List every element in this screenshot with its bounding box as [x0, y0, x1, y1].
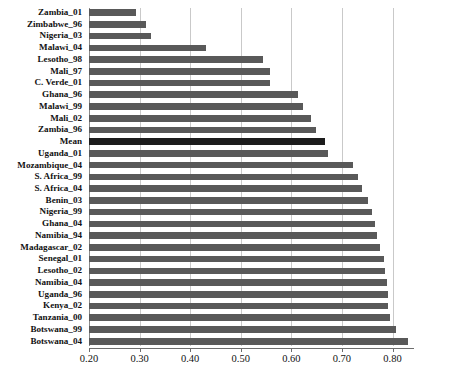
category-label: Uganda_01: [0, 149, 86, 158]
plot-area: [89, 8, 413, 346]
bar: [89, 56, 263, 63]
x-tick-mark: [190, 348, 191, 352]
bar: [89, 127, 316, 134]
bar-row: [89, 31, 413, 40]
bar: [89, 33, 151, 40]
bar: [89, 21, 146, 28]
x-tick-label: 0.50: [232, 353, 250, 364]
bar-row: [89, 184, 413, 193]
bar-row: [89, 137, 413, 146]
category-label: Mali_97: [0, 67, 86, 76]
x-tick-label: 0.60: [282, 353, 300, 364]
bar-row: [89, 90, 413, 99]
category-label: Zambia_96: [0, 125, 86, 134]
bar: [89, 115, 311, 122]
bar-row: [89, 337, 413, 346]
category-label: Lesotho_98: [0, 55, 86, 64]
bar: [89, 338, 408, 345]
category-axis-labels: Zambia_01Zimbabwe_96Nigeria_03Malawi_04L…: [0, 8, 86, 346]
category-label: C. Verde_01: [0, 78, 86, 87]
bar: [89, 244, 380, 251]
bar-chart: Zambia_01Zimbabwe_96Nigeria_03Malawi_04L…: [0, 0, 452, 387]
bar: [89, 162, 353, 169]
bar: [89, 185, 362, 192]
category-label: S. Africa_99: [0, 172, 86, 181]
bar-row: [89, 78, 413, 87]
bar-row: [89, 55, 413, 64]
category-label: Mali_02: [0, 114, 86, 123]
category-label: Uganda_96: [0, 290, 86, 299]
x-tick-label: 0.70: [333, 353, 351, 364]
category-label: Benin_03: [0, 196, 86, 205]
bar: [89, 326, 396, 333]
x-tick-mark: [89, 348, 90, 352]
bar-row: [89, 172, 413, 181]
bar: [89, 209, 372, 216]
bar: [89, 291, 388, 298]
x-tick-label: 0.30: [130, 353, 148, 364]
category-label: Ghana_04: [0, 219, 86, 228]
bar-mean: [89, 138, 325, 145]
category-label: Botswana_99: [0, 325, 86, 334]
x-tick-mark: [393, 348, 394, 352]
x-axis-line: [89, 348, 414, 349]
bar: [89, 150, 328, 157]
bar-row: [89, 114, 413, 123]
category-label: Kenya_02: [0, 301, 86, 310]
bar-row: [89, 102, 413, 111]
x-tick-mark: [342, 348, 343, 352]
bar: [89, 91, 298, 98]
bar-row: [89, 125, 413, 134]
bar-row: [89, 43, 413, 52]
bar-row: [89, 161, 413, 170]
x-tick-mark: [241, 348, 242, 352]
bar: [89, 232, 377, 239]
x-tick-label: 0.80: [383, 353, 401, 364]
bar-row: [89, 67, 413, 76]
bar-row: [89, 207, 413, 216]
bar-row: [89, 278, 413, 287]
bar: [89, 279, 387, 286]
category-label: Madagascar_02: [0, 243, 86, 252]
bar-row: [89, 20, 413, 29]
x-tick-mark: [140, 348, 141, 352]
bar: [89, 303, 388, 310]
bar: [89, 221, 375, 228]
bar: [89, 68, 270, 75]
category-label: Namibia_04: [0, 278, 86, 287]
bar-row: [89, 325, 413, 334]
x-tick-label: 0.20: [80, 353, 98, 364]
bar: [89, 9, 136, 16]
bar: [89, 45, 206, 52]
bar: [89, 197, 368, 204]
category-label: Malawi_04: [0, 43, 86, 52]
bar-row: [89, 266, 413, 275]
bar-row: [89, 149, 413, 158]
category-label: Namibia_94: [0, 231, 86, 240]
category-label: Ghana_96: [0, 90, 86, 99]
bar-row: [89, 196, 413, 205]
x-tick-label: 0.40: [181, 353, 199, 364]
bar-row: [89, 301, 413, 310]
category-label: Nigeria_99: [0, 207, 86, 216]
bar-row: [89, 8, 413, 17]
bar-row: [89, 243, 413, 252]
bar-row: [89, 219, 413, 228]
category-label: Mean: [0, 137, 86, 146]
bar: [89, 256, 384, 263]
category-label: Zimbabwe_96: [0, 20, 86, 29]
category-label: Botswana_04: [0, 337, 86, 346]
x-tick-mark: [291, 348, 292, 352]
bar-row: [89, 313, 413, 322]
category-label: Lesotho_02: [0, 266, 86, 275]
bar: [89, 314, 390, 321]
bar: [89, 268, 385, 275]
bar: [89, 174, 358, 181]
bar-series: [89, 8, 413, 346]
bar-row: [89, 254, 413, 263]
category-label: Tanzania_00: [0, 313, 86, 322]
bar: [89, 80, 270, 87]
bar-row: [89, 290, 413, 299]
category-label: Mozambique_04: [0, 161, 86, 170]
category-label: S. Africa_04: [0, 184, 86, 193]
